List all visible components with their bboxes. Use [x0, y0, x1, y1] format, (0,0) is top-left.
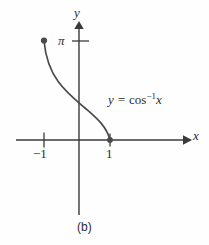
- equation-lhs: y: [108, 92, 114, 107]
- equation-function: cos: [129, 92, 146, 107]
- graph-canvas: [0, 0, 209, 245]
- x-axis-arrowhead: [183, 135, 192, 145]
- axis-label-x: x: [193, 129, 199, 142]
- tick-label-pi: π: [58, 34, 65, 47]
- tick-label-negative-one: −1: [33, 147, 47, 160]
- equation-equals: =: [117, 92, 126, 107]
- curve-equation-label: y = cos−1x: [108, 92, 162, 106]
- endpoint-marker-left: [41, 37, 47, 43]
- y-axis-arrowhead: [74, 21, 83, 29]
- arccos-curve: [44, 41, 110, 140]
- equation-argument: x: [156, 92, 162, 107]
- tick-label-one: 1: [106, 147, 113, 160]
- equation-exponent: −1: [146, 91, 156, 101]
- endpoint-marker-right: [107, 137, 113, 143]
- panel-caption: (b): [77, 221, 92, 233]
- axis-label-y: y: [74, 6, 80, 19]
- figure-panel: y x π −1 1 y = cos−1x (b): [0, 0, 209, 245]
